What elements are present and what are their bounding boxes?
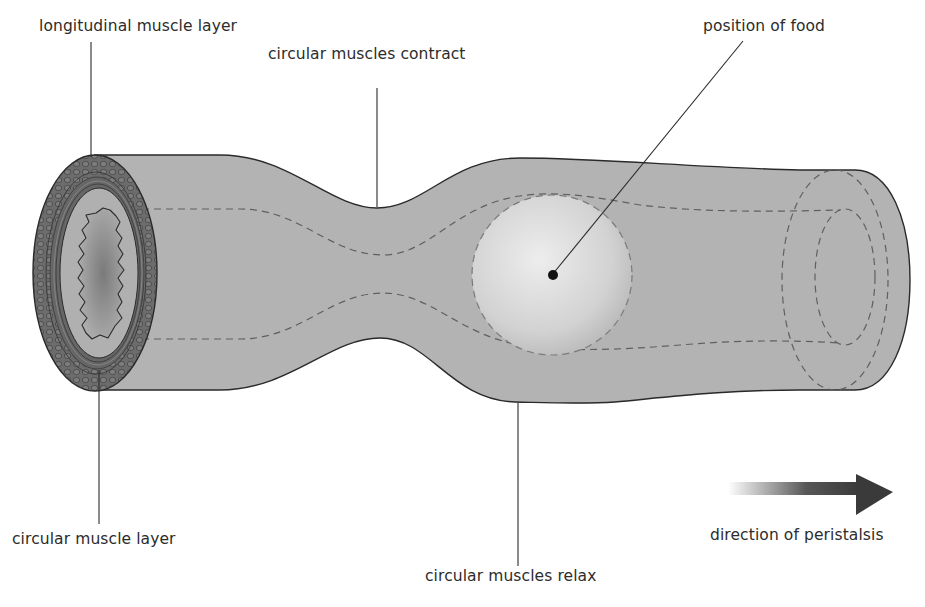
label-position-of-food: position of food [703,17,825,35]
food-marker-dot [548,270,558,280]
direction-arrow-icon [728,474,893,515]
label-circular-muscles-relax: circular muscles relax [425,567,596,585]
peristalsis-diagram [0,0,925,607]
label-longitudinal-muscle-layer: longitudinal muscle layer [39,17,237,35]
cross-section [33,155,157,391]
label-circular-muscles-contract: circular muscles contract [268,45,466,63]
label-circular-muscle-layer: circular muscle layer [12,530,176,548]
label-direction-of-peristalsis: direction of peristalsis [710,526,884,544]
